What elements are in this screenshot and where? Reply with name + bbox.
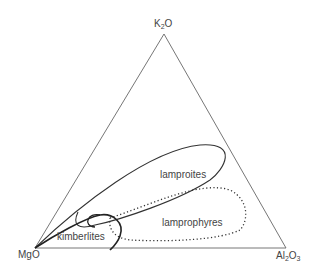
vertex-label-k2o: K2O (154, 19, 172, 30)
field-label-kimberlites: kimberlites (57, 232, 105, 242)
ternary-diagram (0, 0, 321, 276)
field-label-lamproites: lamproites (160, 170, 206, 180)
vertex-label-al2o3: Al2O3 (276, 251, 301, 262)
ternary-triangle (35, 34, 286, 248)
lamprophyres-field (110, 188, 246, 241)
vertex-label-mgo: MgO (18, 250, 40, 260)
field-label-lamprophyres: lamprophyres (162, 218, 223, 228)
